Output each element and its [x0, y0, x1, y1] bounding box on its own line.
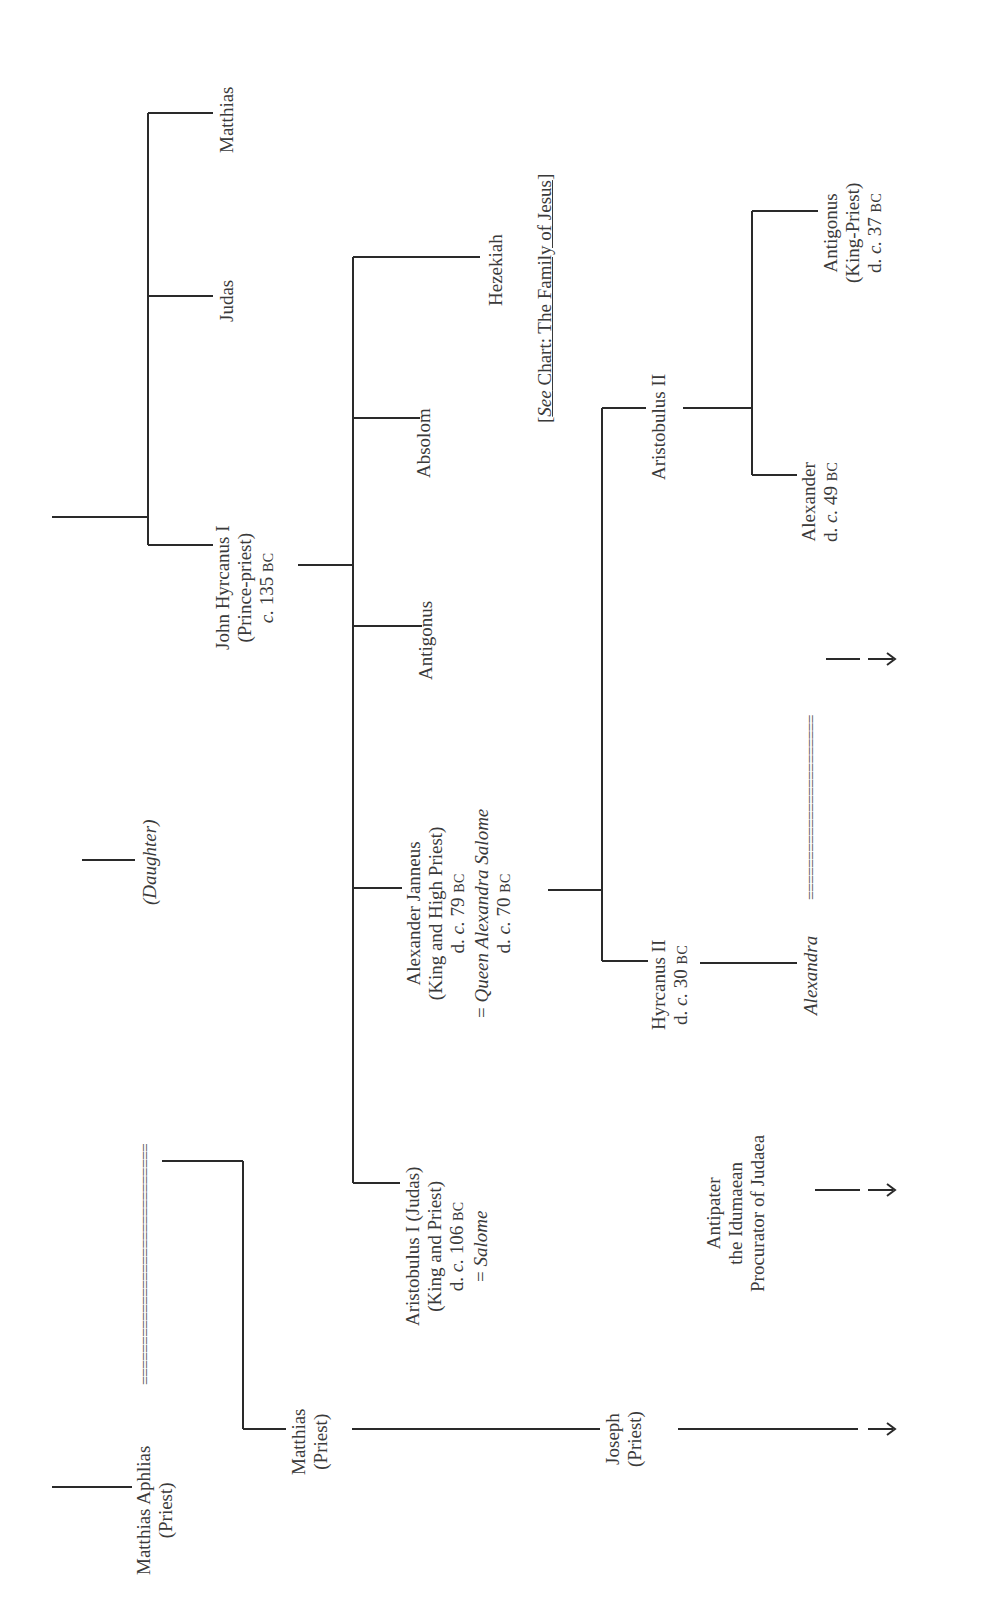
person-absolom: Absolom	[413, 408, 435, 478]
person-antipater: Antipater the Idumaean Procurator of Jud…	[703, 1135, 769, 1292]
person-alexander: Alexander d. c. 49 BC	[798, 462, 844, 542]
person-matthias-priest: Matthias (Priest)	[288, 1409, 332, 1476]
person-aristobulus-ii: Aristobulus II	[648, 374, 670, 480]
person-john-hyrcanus-i: John Hyrcanus I (Prince-priest) c. 135 B…	[212, 525, 280, 650]
person-aristobulus-i: Aristobulus I (Judas) (King and Priest) …	[402, 1167, 492, 1326]
marriage-line-alexandra-alexander: =======================	[803, 715, 821, 900]
arrow-right-icon	[880, 1420, 896, 1438]
person-joseph: Joseph (Priest)	[602, 1411, 646, 1467]
marriage-line-aphlias-daughter: ==============================	[137, 1144, 155, 1385]
cross-reference-family-of-jesus[interactable]: [See Chart: The Family of Jesus]	[534, 174, 556, 423]
person-judas: Judas	[216, 280, 238, 322]
person-matthias-aphlias: Matthias Aphlias (Priest)	[133, 1446, 177, 1575]
person-alexander-janneus: Alexander Janneus (King and High Priest)…	[403, 809, 517, 1018]
arrow-right-icon	[880, 1181, 896, 1199]
person-antigonus-king-priest: Antigonus (King-Priest) d. c. 37 BC	[820, 183, 888, 283]
person-daughter: (Daughter)	[139, 820, 161, 905]
arrow-right-icon	[880, 650, 896, 668]
person-antigonus: Antigonus	[415, 601, 437, 680]
person-hezekiah: Hezekiah	[485, 234, 507, 306]
person-matthias-son: Matthias	[216, 87, 238, 154]
person-alexandra: Alexandra	[800, 936, 822, 1015]
person-hyrcanus-ii: Hyrcanus II d. c. 30 BC	[648, 940, 694, 1030]
